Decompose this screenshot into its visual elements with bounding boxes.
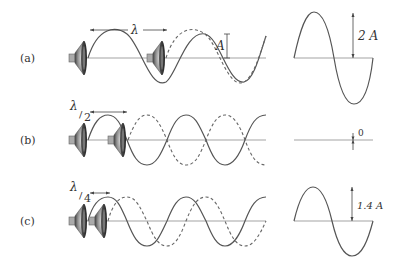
row-c-waves: λ / 4 [69, 180, 266, 246]
spacing-label-c: λ [69, 180, 78, 194]
speaker-icon [108, 123, 126, 157]
interference-diagram: (a) (b) (c) λ A 2 A λ / [0, 0, 397, 268]
speaker-icon [69, 204, 87, 238]
result-label-a: 2 A [357, 29, 378, 43]
row-b-waves: λ / 2 [69, 99, 266, 165]
row-label-b: (b) [20, 134, 36, 147]
spacing-slash-c: / [79, 190, 83, 201]
row-a-result: 2 A [294, 12, 378, 104]
speaker-icon [69, 123, 87, 157]
result-label-c: 1.4 A [357, 200, 383, 211]
row-c-result: 1.4 A [294, 187, 383, 256]
wave-speaker-2 [108, 197, 266, 246]
row-label-c: (c) [20, 215, 35, 228]
row-label-a: (a) [20, 52, 35, 65]
speaker-icon [69, 41, 87, 75]
spacing-label-a: λ [130, 23, 139, 37]
speaker-icon [147, 41, 165, 75]
spacing-sub-b: 2 [84, 111, 91, 124]
spacing-label-b: λ [69, 99, 78, 113]
row-b-result: 0 [294, 128, 373, 150]
spacing-slash-b: / [79, 109, 83, 120]
spacing-sub-c: 4 [84, 192, 91, 205]
result-label-b: 0 [358, 128, 364, 138]
amplitude-label: A [215, 39, 225, 53]
result-wave-c [294, 187, 373, 256]
row-a-waves: λ A [69, 23, 266, 83]
